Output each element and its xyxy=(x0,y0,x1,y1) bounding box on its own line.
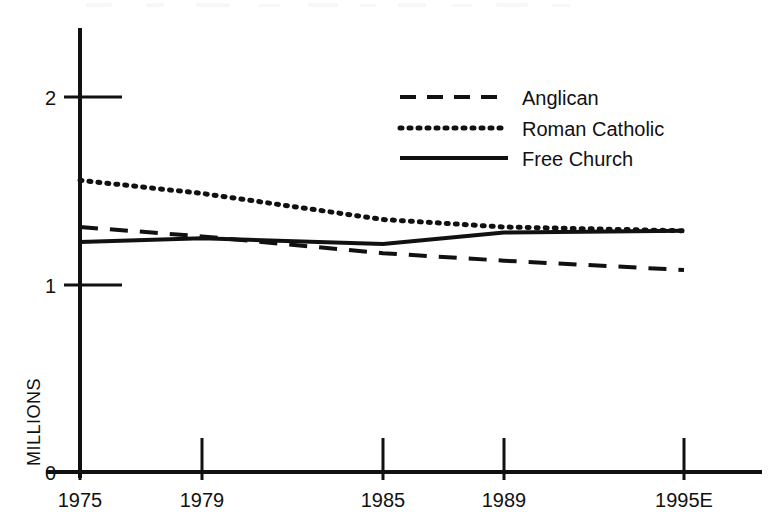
y-tick-label-0: 0 xyxy=(45,462,56,484)
legend-label-roman-catholic: Roman Catholic xyxy=(522,118,664,140)
series-group xyxy=(80,180,684,270)
legend: Anglican Roman Catholic Free Church xyxy=(400,87,664,170)
legend-item-anglican[interactable]: Anglican xyxy=(400,87,599,109)
legend-item-roman-catholic[interactable]: Roman Catholic xyxy=(400,118,664,140)
y-tick-label-2: 2 xyxy=(45,87,56,109)
x-tick-label-1995: 1995E xyxy=(655,489,713,511)
line-chart: 2 1 0 MILLIONS 1975 1979 1985 1989 1995E xyxy=(0,0,770,523)
legend-item-free-church[interactable]: Free Church xyxy=(400,148,633,170)
x-tick-label-1975: 1975 xyxy=(58,489,103,511)
series-line-roman-catholic xyxy=(80,180,684,231)
y-tick-label-1: 1 xyxy=(45,275,56,297)
x-tick-label-1989: 1989 xyxy=(482,489,527,511)
x-tick-label-1979: 1979 xyxy=(180,489,225,511)
y-ticks-group xyxy=(64,97,122,472)
legend-label-free-church: Free Church xyxy=(522,148,633,170)
chart-container: 2 1 0 MILLIONS 1975 1979 1985 1989 1995E xyxy=(0,0,770,523)
y-axis-title: MILLIONS xyxy=(24,378,44,466)
x-tick-label-1985: 1985 xyxy=(361,489,406,511)
scan-artifact-row xyxy=(86,3,570,7)
legend-label-anglican: Anglican xyxy=(522,87,599,109)
